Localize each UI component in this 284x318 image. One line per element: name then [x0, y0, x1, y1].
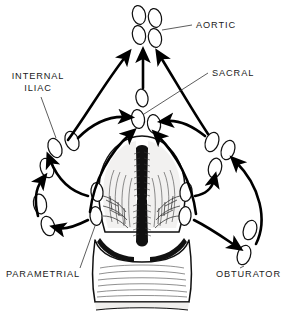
label-internal: INTERNAL — [12, 71, 65, 81]
label-parametrial: PARAMETRIAL — [6, 269, 80, 279]
label-sacral: SACRAL — [212, 68, 254, 78]
label-obturator: OBTURATOR — [216, 269, 281, 279]
label-iliac: ILIAC — [24, 83, 51, 93]
label-aortic: AORTIC — [196, 20, 236, 30]
lymphatic-drainage-figure: AORTIC SACRAL INTERNAL ILIAC PARAMETRIAL… — [0, 0, 284, 318]
diagram-canvas: AORTIC SACRAL INTERNAL ILIAC PARAMETRIAL… — [0, 0, 284, 318]
